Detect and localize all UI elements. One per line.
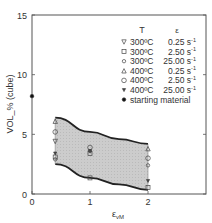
- legend-item: 400ºC25.00 s-1: [122, 85, 196, 96]
- legend-header-rate: ε: [175, 26, 179, 35]
- legend-item: 300ºC2.50 s-1: [122, 46, 196, 57]
- legend-temperature: 400ºC: [130, 66, 153, 76]
- legend-triangle-down-icon: [122, 40, 126, 44]
- legend-temperature: 300ºC: [130, 47, 153, 57]
- legend-temperature: 400ºC: [130, 85, 153, 95]
- y-tick-label: 0: [22, 190, 27, 200]
- legend-temperature: 300ºC: [130, 37, 153, 47]
- legend-temperature: 300ºC: [130, 56, 153, 66]
- legend-temperature: starting material: [130, 95, 191, 105]
- y-tick-label: 15: [17, 11, 27, 21]
- legend-item: 400ºC0.25 s-1: [122, 65, 196, 76]
- legend-header-temperature: T: [139, 25, 145, 35]
- chart-canvas: 051015012 Tε300ºC0.25 s-1300ºC2.50 s-130…: [0, 0, 212, 223]
- legend-item: 300ºC0.25 s-1: [122, 37, 196, 48]
- legend-square-icon: [122, 50, 126, 54]
- x-tick-label: 2: [145, 197, 150, 207]
- legend-rate: 25.00 s-1: [163, 85, 196, 96]
- x-tick-label: 1: [87, 197, 92, 207]
- legend-triangle-up-icon: [122, 69, 126, 73]
- scatter-band: [55, 118, 148, 190]
- legend-circle-small-icon: [122, 60, 125, 63]
- legend-item: 400ºC2.50 s-1: [122, 75, 196, 86]
- x-axis-label-sub: vM: [116, 214, 124, 220]
- legend-dot-filled-icon: [122, 98, 126, 102]
- y-axis-label: VOL_% (cube): [5, 74, 15, 133]
- legend-item: 300ºC25.00 s-1: [122, 56, 196, 67]
- legend-triangle-down-filled-icon: [122, 89, 125, 92]
- y-tick-label: 5: [22, 130, 27, 140]
- legend-item: starting material: [122, 95, 190, 105]
- x-tick-label: 0: [29, 197, 34, 207]
- legend-circle-icon: [122, 78, 127, 83]
- y-tick-label: 10: [17, 70, 27, 80]
- legend-temperature: 400ºC: [130, 75, 153, 85]
- legend: Tε300ºC0.25 s-1300ºC2.50 s-1300ºC25.00 s…: [122, 25, 196, 105]
- x-axis-label: εvM: [112, 209, 124, 220]
- data-point-dot-filled-marker-icon: [30, 94, 34, 98]
